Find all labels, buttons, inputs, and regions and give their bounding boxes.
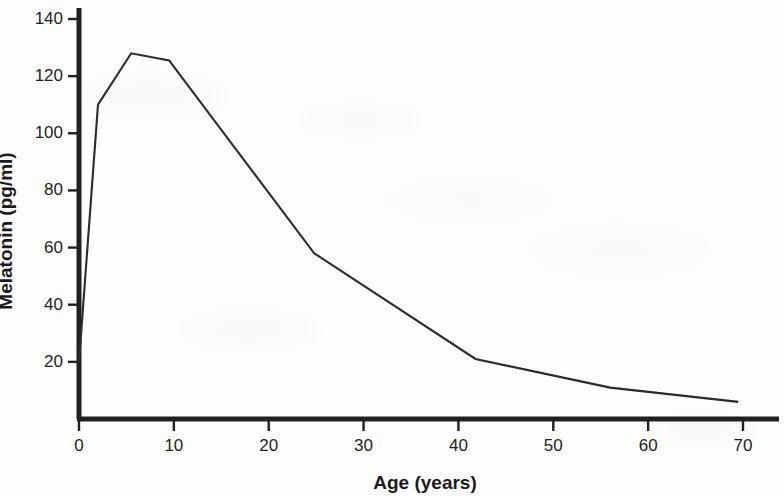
x-tick-label: 30 [354,436,373,456]
x-tick-label: 70 [734,436,753,456]
y-axis-title: Melatonin (pg/ml) [0,152,17,309]
x-tick-label: 10 [164,436,183,456]
x-tick-label: 40 [449,436,468,456]
y-tick-label: 60 [44,238,63,258]
y-tick-label: 80 [44,180,63,200]
y-tick-label: 120 [35,66,63,86]
x-tick-label: 0 [74,436,83,456]
melatonin-data-line [79,53,738,402]
chart-plot-area [0,0,784,498]
y-tick-label: 100 [35,123,63,143]
y-tick-label: 140 [35,9,63,29]
x-tick-label: 20 [259,436,278,456]
x-tick-label: 50 [544,436,563,456]
y-tick-label: 20 [44,352,63,372]
melatonin-age-figure: 20406080100120140 010203040506070 Melato… [0,0,784,498]
x-tick-label: 60 [639,436,658,456]
x-axis-ticks [79,421,743,431]
x-axis-title: Age (years) [373,472,477,494]
y-tick-label: 40 [44,295,63,315]
